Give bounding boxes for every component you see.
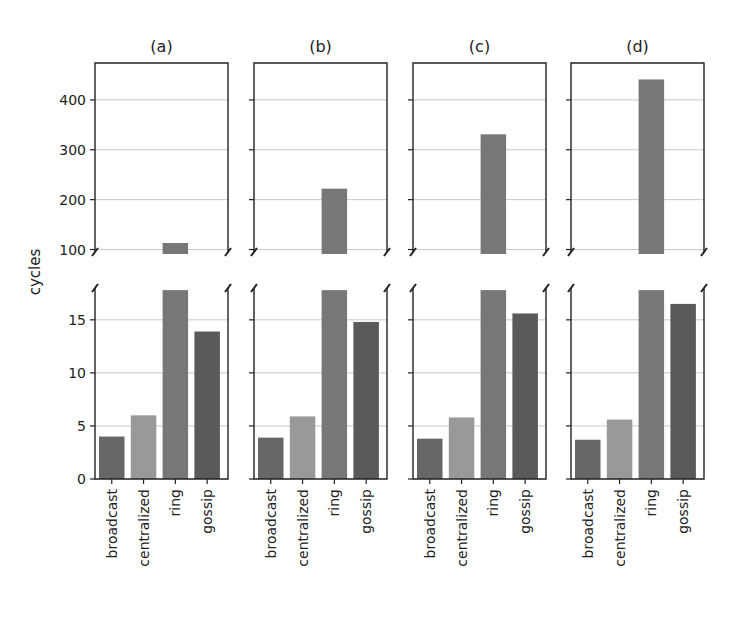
bar-centralized <box>449 417 475 479</box>
bar-upper-ring <box>322 189 348 254</box>
x-tick-label: gossip <box>517 489 533 534</box>
upper-axis-frame <box>95 63 228 252</box>
y-tick-label: 5 <box>77 418 86 434</box>
x-tick-label: broadcast <box>580 489 596 559</box>
panel-b: (b)broadcastcentralizedringgossip <box>249 37 390 567</box>
panel-title: (c) <box>469 37 490 56</box>
bar-centralized <box>290 416 316 479</box>
bar-gossip <box>194 332 220 479</box>
x-tick-label: centralized <box>612 489 628 567</box>
bar-centralized <box>131 415 157 479</box>
bar-centralized <box>607 420 633 479</box>
bar-upper-ring <box>639 79 665 254</box>
panel-a: (a)broadcastcentralizedringgossip <box>90 37 231 567</box>
bar-ring <box>163 290 189 479</box>
x-tick-label: gossip <box>199 489 215 534</box>
bar-upper-ring <box>163 243 189 254</box>
x-tick-label: broadcast <box>422 489 438 559</box>
x-tick-label: ring <box>326 489 342 516</box>
x-tick-label: gossip <box>675 489 691 534</box>
bar-ring <box>639 290 665 479</box>
y-tick-label: 0 <box>77 471 86 487</box>
y-tick-label: 200 <box>59 192 86 208</box>
bar-broadcast <box>417 439 443 479</box>
upper-axis-frame <box>571 63 704 252</box>
upper-y-tick-labels: 100200300400 <box>59 92 86 258</box>
bar-ring <box>481 290 507 479</box>
x-tick-label: ring <box>485 489 501 516</box>
panel-title: (a) <box>150 37 172 56</box>
panel-title: (d) <box>626 37 649 56</box>
y-axis-label: cycles <box>26 249 44 296</box>
y-tick-label: 400 <box>59 92 86 108</box>
x-tick-label: broadcast <box>263 489 279 559</box>
x-tick-label: centralized <box>454 489 470 567</box>
upper-axis-frame <box>413 63 546 252</box>
panel-d: (d)broadcastcentralizedringgossip <box>566 37 707 567</box>
bar-gossip <box>670 304 696 479</box>
x-tick-label: centralized <box>136 489 152 567</box>
x-tick-label: ring <box>167 489 183 516</box>
y-tick-label: 15 <box>68 312 86 328</box>
x-tick-label: broadcast <box>104 489 120 559</box>
lower-y-tick-labels: 051015 <box>68 312 86 487</box>
y-tick-label: 100 <box>59 242 86 258</box>
panel-title: (b) <box>309 37 332 56</box>
x-tick-label: ring <box>643 489 659 516</box>
y-tick-label: 10 <box>68 365 86 381</box>
bar-gossip <box>512 313 538 479</box>
bar-broadcast <box>258 438 284 479</box>
panel-c: (c)broadcastcentralizedringgossip <box>408 37 549 567</box>
y-tick-label: 300 <box>59 142 86 158</box>
bar-ring <box>322 290 348 479</box>
bar-gossip <box>353 322 379 479</box>
chart-figure: (a)broadcastcentralizedringgossip(b)broa… <box>0 0 743 621</box>
x-tick-label: gossip <box>358 489 374 534</box>
bar-upper-ring <box>481 134 507 254</box>
upper-axis-frame <box>254 63 387 252</box>
x-tick-label: centralized <box>295 489 311 567</box>
bar-broadcast <box>575 440 601 479</box>
bar-broadcast <box>99 437 125 479</box>
